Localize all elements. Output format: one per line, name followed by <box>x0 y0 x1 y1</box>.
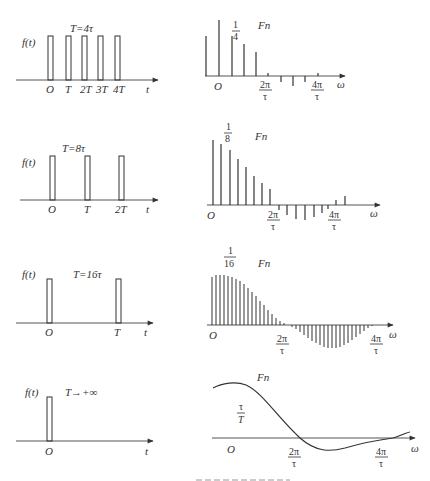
tick-2pi-den: τ <box>271 221 275 232</box>
peak-num: τ <box>239 401 243 412</box>
tick-4pi-den: τ <box>332 221 336 232</box>
pulses <box>48 36 120 80</box>
tick-O: O <box>45 326 53 338</box>
tick-4T: 4T <box>113 83 126 95</box>
fn-label: Fn <box>257 257 271 269</box>
period-label: T=4τ <box>70 22 94 34</box>
row4-spectrum-panel: O τ T Fn 2π τ 4π τ ω <box>212 371 419 469</box>
ylabel: f(t) <box>22 268 36 281</box>
period-label: T=8τ <box>62 142 86 154</box>
omega-label: ω <box>370 207 378 219</box>
row3-spectrum-panel: O 1 16 Fn 2π τ 4π τ ω <box>207 245 397 356</box>
fn-label: Fn <box>257 19 271 31</box>
peak-num: 1 <box>233 19 238 30</box>
tick-2pi-num: 2π <box>289 446 299 457</box>
ylabel: f(t) <box>25 386 39 399</box>
row2-spectrum-panel: O 1 8 Fn 2π τ 4π τ ω <box>207 121 380 232</box>
tick-2pi-den: τ <box>263 91 267 102</box>
pulses <box>47 279 121 323</box>
tick-T: T <box>114 326 121 338</box>
tick-O: O <box>48 203 56 215</box>
row1-time-panel: f(t) T=4τ t O T 2T 3T 4T <box>16 22 158 95</box>
tick-4pi-num: 4π <box>312 79 322 90</box>
period-label: T→+∞ <box>65 386 98 398</box>
spectral-lines <box>213 140 345 220</box>
tick-3T: 3T <box>95 83 109 95</box>
xlabel: t <box>146 203 150 215</box>
tick-O: O <box>45 445 53 457</box>
peak-den: 8 <box>225 133 230 144</box>
row4-time-panel: f(t) T→+∞ t O <box>16 386 153 457</box>
xlabel: t <box>144 326 148 338</box>
spectral-lines <box>212 275 372 348</box>
period-label: T=16τ <box>73 268 103 280</box>
tick-T: T <box>65 83 72 95</box>
figure-canvas: f(t) T=4τ t O T 2T 3T 4T O 1 4 Fn 2π τ 4… <box>0 0 430 481</box>
pulses <box>50 156 124 200</box>
tick-2pi-num: 2π <box>277 333 287 344</box>
omega-label: ω <box>411 442 419 454</box>
pulses <box>47 397 52 441</box>
tick-2T: 2T <box>80 83 93 95</box>
ylabel: f(t) <box>22 36 36 49</box>
tick-2pi-den: τ <box>292 458 296 469</box>
peak-den: 16 <box>224 258 234 269</box>
tick-4pi-num: 4π <box>376 446 386 457</box>
peak-num: 1 <box>226 121 231 132</box>
row3-time-panel: f(t) T=16τ t O T <box>16 268 153 338</box>
tick-4pi-num: 4π <box>329 209 339 220</box>
xlabel: t <box>145 445 149 457</box>
omega-label: ω <box>337 78 345 90</box>
tick-4pi-den: τ <box>379 458 383 469</box>
ylabel: f(t) <box>22 156 36 169</box>
tick-4pi-num: 4π <box>371 333 381 344</box>
origin-label: O <box>214 80 222 92</box>
fn-label: Fn <box>254 130 268 142</box>
tick-4pi-den: τ <box>315 91 319 102</box>
peak-den: T <box>238 414 245 425</box>
tick-2pi-num: 2π <box>260 79 270 90</box>
xlabel: t <box>146 83 150 95</box>
origin-label: O <box>227 443 235 455</box>
origin-label: O <box>209 329 217 341</box>
row1-spectrum-panel: O 1 4 Fn 2π τ 4π τ ω <box>205 19 345 102</box>
tick-2pi-num: 2π <box>268 209 278 220</box>
omega-label: ω <box>389 328 397 340</box>
tick-O: O <box>46 83 54 95</box>
origin-label: O <box>207 209 215 221</box>
peak-den: 4 <box>233 31 238 42</box>
row2-time-panel: f(t) T=8τ t O T 2T <box>20 142 158 215</box>
fn-label: Fn <box>256 371 270 383</box>
peak-num: 1 <box>228 245 233 256</box>
tick-2pi-den: τ <box>280 345 284 356</box>
tick-2T: 2T <box>115 203 128 215</box>
tick-4pi-den: τ <box>374 345 378 356</box>
tick-T: T <box>84 203 91 215</box>
